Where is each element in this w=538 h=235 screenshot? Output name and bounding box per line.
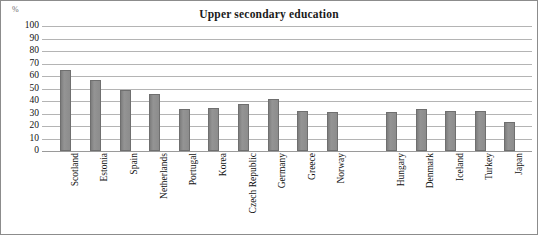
x-tick-label-text: Hungary xyxy=(396,153,406,186)
x-tick-label-text: Korea xyxy=(218,153,228,176)
x-tick-label: Czech Republic xyxy=(248,153,258,213)
x-tick-label-text: Turkey xyxy=(484,153,494,180)
bars-group xyxy=(42,26,532,151)
y-tick-label: 0 xyxy=(3,146,39,156)
y-tick-label: 100 xyxy=(3,21,39,31)
x-tick-label-text: Norway xyxy=(336,153,346,184)
x-tick-label: Estonia xyxy=(99,153,109,182)
plot-area xyxy=(42,26,532,151)
x-tick-label: Norway xyxy=(336,153,346,184)
x-tick-label: Iceland xyxy=(455,153,465,181)
x-tick-label: Denmark xyxy=(425,153,435,188)
x-tick-label-text: Netherlands xyxy=(159,153,169,199)
y-tick-label: 50 xyxy=(3,84,39,94)
y-tick-label: 30 xyxy=(3,109,39,119)
y-tick-label: 90 xyxy=(3,34,39,44)
bar xyxy=(60,70,71,151)
y-tick-label: 60 xyxy=(3,71,39,81)
x-tick-label-text: Czech Republic xyxy=(248,153,258,213)
x-tick-label: Turkey xyxy=(484,153,494,180)
x-tick-label-text: Estonia xyxy=(99,153,109,182)
x-axis-labels: ScotlandEstoniaSpainNetherlandsPortugalK… xyxy=(42,153,532,235)
x-tick-label-text: Portugal xyxy=(188,153,198,185)
bar xyxy=(297,111,308,151)
x-tick-label-text: Greece xyxy=(307,153,317,180)
x-tick-label-text: Germany xyxy=(277,153,287,188)
x-tick-label: Netherlands xyxy=(159,153,169,199)
bar xyxy=(90,80,101,151)
bar xyxy=(149,94,160,151)
y-tick-label: 70 xyxy=(3,59,39,69)
x-tick-label: Hungary xyxy=(396,153,406,186)
x-tick-label: Japan xyxy=(514,153,524,175)
y-axis: 1009080706050403020100 xyxy=(1,26,39,151)
x-tick-label-text: Spain xyxy=(129,153,139,175)
y-tick-label: 20 xyxy=(3,121,39,131)
bar xyxy=(208,108,219,151)
bar xyxy=(238,104,249,151)
x-tick-label-text: Denmark xyxy=(425,153,435,188)
x-tick-label: Korea xyxy=(218,153,228,176)
y-tick-label: 80 xyxy=(3,46,39,56)
chart-title: Upper secondary education xyxy=(1,8,537,20)
x-tick-label: Spain xyxy=(129,153,139,175)
chart-figure: % Upper secondary education 100908070605… xyxy=(0,0,538,235)
bar xyxy=(327,112,338,151)
x-tick-label-text: Scotland xyxy=(70,153,80,186)
x-tick-label: Greece xyxy=(307,153,317,180)
bar xyxy=(268,99,279,152)
x-tick-label: Germany xyxy=(277,153,287,188)
x-tick-label-text: Japan xyxy=(514,153,524,175)
bar xyxy=(475,111,486,151)
bar xyxy=(386,112,397,151)
bar xyxy=(416,109,427,152)
bar xyxy=(120,90,131,151)
x-tick-label: Portugal xyxy=(188,153,198,185)
y-tick-label: 40 xyxy=(3,96,39,106)
x-tick-label: Scotland xyxy=(70,153,80,186)
bar xyxy=(179,109,190,151)
y-tick-label: 10 xyxy=(3,134,39,144)
bar xyxy=(504,122,515,151)
bar xyxy=(445,111,456,151)
gridline-0 xyxy=(42,151,532,152)
x-tick-label-text: Iceland xyxy=(455,153,465,181)
